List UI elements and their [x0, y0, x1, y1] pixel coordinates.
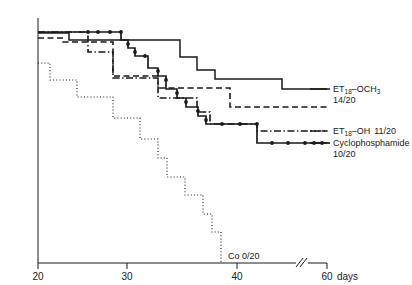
chart-canvas: 20 30 40 60 days	[0, 0, 412, 285]
series-line-co	[38, 63, 221, 263]
legend-entry-et18-och3[interactable]: ET18–OCH3 14/20	[310, 84, 381, 105]
series-line-et18-oh	[38, 32, 327, 131]
series-markers-cyclophosphamide	[86, 30, 307, 145]
legend-group: ET18–OCH3 14/20 ET18–OH11/20 Cyclophosph…	[310, 84, 410, 159]
annotation-control-label: Co 0/20	[228, 251, 260, 261]
x-tick-label-20: 20	[32, 271, 44, 282]
x-tick-label-60: 60	[321, 271, 333, 282]
legend-label-et18-och3: ET18–OCH3	[333, 84, 381, 95]
legend-label-cyclophosphamide: Cyclophosphamide	[333, 138, 410, 148]
legend-swatch-marker-dot-2	[320, 141, 324, 145]
survival-curve-figure: 20 30 40 60 days	[0, 0, 412, 285]
x-tick-label-30: 30	[121, 271, 133, 282]
series-line-et18-och3	[38, 33, 327, 89]
x-tick-label-40: 40	[231, 271, 243, 282]
axis-break-icon	[296, 258, 307, 267]
legend-swatch-marker-dot-1	[312, 141, 316, 145]
legend-fraction-cyclophosphamide: 10/20	[333, 149, 356, 159]
legend-fraction-et18-och3: 14/20	[333, 95, 356, 105]
legend-entry-cyclophosphamide[interactable]: Cyclophosphamide 10/20	[310, 138, 410, 159]
x-axis-unit-label: days	[337, 271, 358, 282]
legend-label-et18-oh: ET18–OH11/20	[333, 126, 396, 137]
legend-entry-et18-oh[interactable]: ET18–OH11/20	[310, 126, 396, 137]
